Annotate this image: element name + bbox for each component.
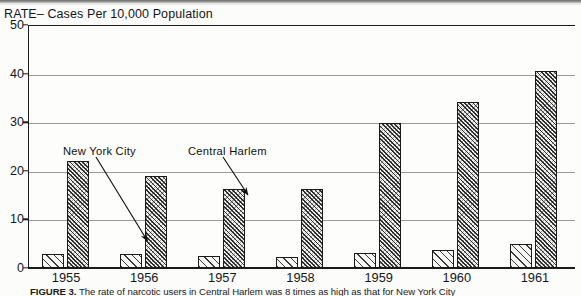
gridline-30 <box>29 123 575 124</box>
annotation-new-york-city: New York City <box>63 145 136 157</box>
bar-new-york-city-1960 <box>432 250 454 268</box>
annotation-central-harlem: Central Harlem <box>188 145 267 157</box>
bar-central-harlem-1956 <box>145 176 167 268</box>
x-tick-1960: 1960 <box>443 270 471 285</box>
x-tick-1958: 1958 <box>286 270 314 285</box>
y-tick-10: 10 <box>10 212 24 226</box>
bar-central-harlem-1955 <box>67 161 89 268</box>
y-axis-title: RATE– Cases Per 10,000 Population <box>4 7 213 21</box>
figure-caption-text: The rate of narcotic users in Central Ha… <box>79 286 455 296</box>
bar-central-harlem-1959 <box>379 123 401 268</box>
figure-caption: FIGURE 3. The rate of narcotic users in … <box>30 286 455 296</box>
y-tick-50: 50 <box>10 18 24 32</box>
figure-caption-label: FIGURE 3. <box>30 286 76 296</box>
x-tick-1959: 1959 <box>364 270 392 285</box>
x-tick-1955: 1955 <box>52 270 80 285</box>
bar-new-york-city-1961 <box>510 244 532 268</box>
y-tick-30: 30 <box>10 115 24 129</box>
bar-central-harlem-1958 <box>301 189 323 268</box>
gridline-20 <box>29 172 575 173</box>
bar-central-harlem-1961 <box>535 71 557 268</box>
figure-page: RATE– Cases Per 10,000 Population 010203… <box>0 0 581 296</box>
bar-new-york-city-1959 <box>354 253 376 268</box>
bar-central-harlem-1957 <box>223 189 245 268</box>
bar-new-york-city-1957 <box>198 256 220 268</box>
page-edge-highlight <box>0 3 581 5</box>
bar-new-york-city-1956 <box>120 254 142 268</box>
y-axis-tick-labels: 01020304050 <box>0 25 24 268</box>
bar-new-york-city-1955 <box>42 254 64 268</box>
x-tick-1957: 1957 <box>208 270 236 285</box>
y-tick-40: 40 <box>10 67 24 81</box>
bar-central-harlem-1960 <box>457 102 479 268</box>
y-tick-20: 20 <box>10 164 24 178</box>
bar-new-york-city-1958 <box>276 257 298 268</box>
x-tick-1956: 1956 <box>130 270 158 285</box>
gridline-40 <box>29 75 575 76</box>
x-tick-1961: 1961 <box>521 270 549 285</box>
